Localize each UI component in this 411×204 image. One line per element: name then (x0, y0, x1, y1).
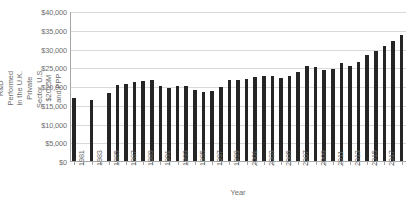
bar (374, 51, 378, 162)
x-tick-label: 1987 (129, 150, 138, 166)
x-tick-label: 2015 (370, 150, 379, 166)
y-axis-tick-labels: $0$5,000$10,000$15,000$20,000$25,000$30,… (33, 12, 69, 162)
x-tick-label: 2007 (301, 150, 310, 166)
x-tick-label: 1995 (198, 150, 207, 166)
bar (141, 81, 145, 162)
y-tick-label: $40,000 (41, 8, 67, 17)
bar (72, 98, 76, 162)
y-tick-label: $30,000 (41, 45, 67, 54)
y-tick-label: $25,000 (41, 64, 67, 73)
x-tick-label: 2003 (267, 150, 276, 166)
bar (262, 76, 266, 162)
bar (159, 86, 163, 162)
bar (228, 80, 232, 163)
chart-container: Gross Domestic R&D Performed in the U.K.… (0, 0, 411, 204)
y-tick-label: $15,000 (41, 101, 67, 110)
x-axis-title: Year (70, 188, 406, 197)
x-tick-label: 1993 (181, 150, 190, 166)
bar-series (70, 12, 406, 162)
y-tick-label: $0 (59, 158, 67, 167)
x-tick-label: 1985 (112, 150, 121, 166)
bar (305, 66, 309, 162)
x-tick-label: 1989 (146, 150, 155, 166)
x-tick-label: 1991 (163, 150, 172, 166)
bar (90, 100, 94, 162)
bar (210, 91, 214, 162)
x-axis-tick-labels: 1981198319851987198919911993199519971999… (70, 165, 406, 187)
bar (279, 78, 283, 162)
bar (365, 55, 369, 162)
bar (322, 70, 326, 162)
y-tick-label: $5,000 (45, 139, 67, 148)
x-tick-label: 2005 (284, 150, 293, 166)
x-tick-label: 2009 (319, 150, 328, 166)
x-tick-label: 2011 (336, 151, 345, 166)
x-tick-label: 1999 (232, 150, 241, 166)
bar (107, 93, 111, 162)
bar (296, 72, 300, 162)
x-tick-label: 1983 (95, 150, 104, 166)
bar (340, 63, 344, 162)
y-tick-label: $20,000 (41, 83, 67, 92)
bar (357, 62, 361, 163)
bar (193, 90, 197, 162)
x-tick-label: 1981 (77, 150, 86, 166)
bar (391, 41, 395, 162)
plot-area (70, 12, 406, 162)
bar (314, 67, 318, 162)
y-tick-label: $10,000 (41, 120, 67, 129)
bar (383, 46, 387, 162)
x-tick-label: 2017 (387, 150, 396, 166)
bar (245, 79, 249, 162)
x-tick-label: 1997 (215, 150, 224, 166)
bar (331, 69, 335, 162)
x-tick-label: 2001 (250, 150, 259, 166)
x-tick-label: 2013 (353, 150, 362, 166)
bar (124, 84, 128, 162)
y-tick-label: $35,000 (41, 26, 67, 35)
bar (400, 35, 404, 162)
bar (348, 66, 352, 162)
bar (176, 86, 180, 163)
